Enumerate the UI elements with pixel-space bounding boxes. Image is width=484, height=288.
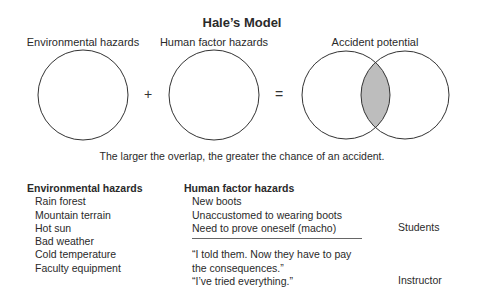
plus-operator: + xyxy=(144,86,152,102)
human-factor-circle xyxy=(169,50,259,140)
divider xyxy=(192,238,362,239)
list-item: Need to prove oneself (macho) xyxy=(184,222,351,235)
equals-operator: = xyxy=(275,86,283,102)
list-item: Faculty equipment xyxy=(27,262,143,275)
role-instructor: Instructor xyxy=(398,274,442,286)
environmental-hazards-list: Environmental hazards Rain forest Mounta… xyxy=(27,182,143,275)
list-item: Bad weather xyxy=(27,235,143,248)
list-item: Cold temperature xyxy=(27,248,143,261)
human-factor-hazards-list: Human factor hazards New boots Unaccusto… xyxy=(184,182,351,288)
list-item: the consequences.” xyxy=(184,262,351,275)
list-item: New boots xyxy=(184,195,351,208)
list-item: “I’ve tried everything.” xyxy=(184,275,351,288)
role-students: Students xyxy=(398,221,439,233)
environmental-header: Environmental hazards xyxy=(27,182,143,195)
environmental-circle xyxy=(38,50,128,140)
human-header: Human factor hazards xyxy=(184,182,351,195)
list-item: Mountain terrain xyxy=(27,209,143,222)
list-item: Hot sun xyxy=(27,222,143,235)
list-item: Rain forest xyxy=(27,195,143,208)
caption: The larger the overlap, the greater the … xyxy=(0,150,484,162)
list-item: Unaccustomed to wearing boots xyxy=(184,209,351,222)
list-item: “I told them. Now they have to pay xyxy=(184,248,351,261)
